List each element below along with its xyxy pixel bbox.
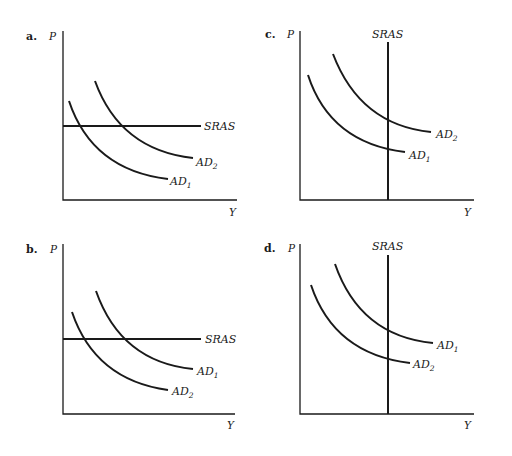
axes (63, 31, 237, 200)
x-axis-label: Y (227, 419, 235, 431)
ad-lower-curve (72, 312, 168, 390)
sras-label: SRAS (372, 28, 404, 41)
ad-lower-curve (311, 285, 410, 363)
panel-letter: a. (26, 30, 37, 43)
figure: a. P Y SRAS AD2 AD1 c. P Y SRAS AD2 AD1 … (0, 0, 512, 456)
panel-a: a. P Y SRAS AD2 AD1 (26, 30, 237, 218)
panel-c: c. P Y SRAS AD2 AD1 (265, 28, 474, 218)
ad-upper-curve (96, 291, 193, 369)
ad-lower-label: AD2 (412, 358, 435, 373)
panel-d: d. P Y SRAS AD1 AD2 (264, 240, 474, 431)
ad-lower-label: AD1 (169, 175, 192, 190)
y-axis-label: P (48, 30, 57, 42)
y-axis-label: P (286, 28, 295, 40)
ad-upper-curve (333, 54, 431, 132)
panel-b: b. P Y SRAS AD1 AD2 (26, 243, 237, 431)
sras-label: SRAS (205, 333, 237, 346)
panel-letter: b. (26, 243, 38, 256)
x-axis-label: Y (229, 206, 237, 218)
ad-upper-curve (95, 81, 193, 158)
ad-upper-label: AD1 (196, 365, 219, 380)
ad-upper-curve (335, 264, 433, 343)
sras-label: SRAS (204, 120, 236, 133)
ad-upper-label: AD2 (195, 156, 218, 171)
panel-letter: d. (264, 242, 276, 255)
ad-lower-curve (69, 101, 168, 179)
y-axis-label: P (49, 243, 58, 255)
ad-lower-label: AD1 (408, 149, 431, 164)
axes (63, 244, 235, 414)
x-axis-label: Y (464, 419, 472, 431)
y-axis-label: P (287, 242, 296, 254)
ad-lower-curve (308, 75, 405, 152)
ad-upper-label: AD1 (436, 339, 459, 354)
panel-letter: c. (265, 28, 276, 41)
ad-lower-label: AD2 (171, 385, 194, 400)
x-axis-label: Y (464, 206, 472, 218)
ad-upper-label: AD2 (435, 128, 458, 143)
sras-label: SRAS (372, 240, 404, 253)
